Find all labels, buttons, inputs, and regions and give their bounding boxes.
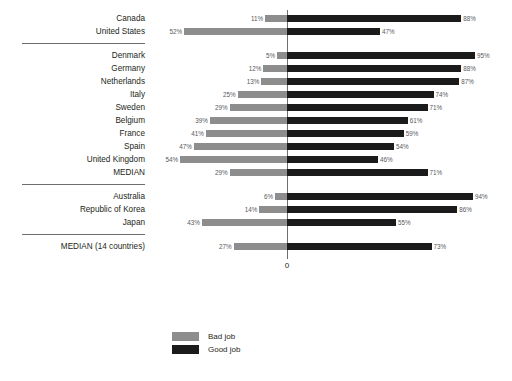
bar-value-bad-job: 27% [192,240,232,253]
bar-value-bad-job: 25% [196,88,236,101]
bar-value-bad-job: 14% [217,203,257,216]
group-separator [22,184,145,185]
chart-legend: Bad job Good job [172,331,372,357]
bar-value-good-job: 71% [430,166,443,179]
bar-value-good-job: 74% [436,88,449,101]
bar-bad-job [194,143,287,150]
bar-value-good-job: 46% [380,153,393,166]
bar-value-bad-job: 47% [152,140,192,153]
bar-good-job [287,193,473,200]
row-bars: 52%47% [0,25,512,38]
bar-value-good-job: 73% [434,240,447,253]
bar-value-bad-job: 29% [188,166,228,179]
bar-good-job [287,78,459,85]
row-bars: 25%74% [0,88,512,101]
chart-row: MEDIAN29%71% [0,166,512,179]
zero-axis-label: 0 [277,261,297,270]
row-bars: 29%71% [0,166,512,179]
bar-value-bad-job: 54% [138,153,178,166]
bar-bad-job [265,15,287,22]
chart-row: Canada11%88% [0,12,512,25]
bar-good-job [287,65,461,72]
bar-value-good-job: 88% [463,12,476,25]
bar-good-job [287,28,380,35]
bar-value-good-job: 54% [396,140,409,153]
bar-good-job [287,15,461,22]
bar-value-good-job: 71% [430,101,443,114]
bar-value-good-job: 88% [463,62,476,75]
bar-good-job [287,156,378,163]
bar-value-good-job: 61% [410,114,423,127]
bar-value-bad-job: 6% [233,190,273,203]
chart-row: Italy25%74% [0,88,512,101]
chart-row: France41%59% [0,127,512,140]
bar-good-job [287,91,434,98]
bar-bad-job [261,78,287,85]
bar-value-good-job: 94% [475,190,488,203]
row-bars: 41%59% [0,127,512,140]
bar-bad-job [238,91,288,98]
bar-value-bad-job: 41% [164,127,204,140]
chart-row: MEDIAN (14 countries)27%73% [0,240,512,253]
legend-swatch-bad-job [172,332,199,341]
legend-item-bad-job: Bad job [172,331,372,342]
bar-value-bad-job: 43% [160,216,200,229]
chart-row: Belgium39%61% [0,114,512,127]
bar-value-bad-job: 39% [168,114,208,127]
chart-row: Sweden29%71% [0,101,512,114]
chart-row: Netherlands13%87% [0,75,512,88]
row-bars: 54%46% [0,153,512,166]
bar-value-bad-job: 5% [235,49,275,62]
legend-label-bad-job: Bad job [208,331,235,342]
bar-value-good-job: 55% [398,216,411,229]
bar-good-job [287,130,404,137]
row-bars: 6%94% [0,190,512,203]
row-bars: 39%61% [0,114,512,127]
legend-label-good-job: Good job [208,344,240,355]
bar-good-job [287,243,432,250]
bar-value-good-job: 86% [459,203,472,216]
bar-value-bad-job: 12% [221,62,261,75]
bar-good-job [287,169,428,176]
diverging-bar-chart: 0 Canada11%88%United States52%47%Denmark… [0,0,512,381]
bar-value-bad-job: 52% [142,25,182,38]
bar-good-job [287,206,457,213]
row-bars: 29%71% [0,101,512,114]
bar-good-job [287,143,394,150]
bar-bad-job [184,28,287,35]
bar-good-job [287,219,396,226]
row-bars: 12%88% [0,62,512,75]
bar-value-bad-job: 13% [219,75,259,88]
bar-bad-job [259,206,287,213]
bar-good-job [287,117,408,124]
chart-row: United States52%47% [0,25,512,38]
bar-bad-job [230,169,287,176]
row-bars: 47%54% [0,140,512,153]
bar-value-bad-job: 11% [223,12,263,25]
chart-row: Germany12%88% [0,62,512,75]
chart-row: Denmark5%95% [0,49,512,62]
bar-bad-job [230,104,287,111]
bar-bad-job [263,65,287,72]
row-bars: 11%88% [0,12,512,25]
row-bars: 14%86% [0,203,512,216]
bar-bad-job [206,130,287,137]
bar-value-good-job: 95% [477,49,490,62]
chart-row: Japan43%55% [0,216,512,229]
row-bars: 5%95% [0,49,512,62]
chart-row: Australia6%94% [0,190,512,203]
row-bars: 43%55% [0,216,512,229]
legend-swatch-good-job [172,345,199,354]
bar-value-good-job: 87% [461,75,474,88]
row-bars: 27%73% [0,240,512,253]
plot-area: 0 Canada11%88%United States52%47%Denmark… [0,10,512,310]
bar-bad-job [210,117,287,124]
bar-good-job [287,104,428,111]
chart-row: United Kingdom54%46% [0,153,512,166]
bar-bad-job [234,243,287,250]
bar-bad-job [202,219,287,226]
row-bars: 13%87% [0,75,512,88]
bar-bad-job [275,193,287,200]
legend-item-good-job: Good job [172,344,372,355]
bar-bad-job [277,52,287,59]
